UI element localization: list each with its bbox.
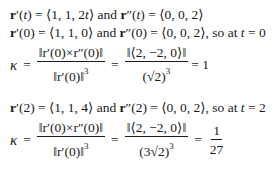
kappa-symbol: κ <box>10 57 17 74</box>
text: ) = ⟨1, 1, 2 <box>27 7 85 22</box>
text: ⟩ and <box>89 7 121 22</box>
exponent: 3 <box>169 141 174 151</box>
den-text: ‖r′(0)‖ <box>53 69 84 84</box>
equals: = <box>23 57 31 73</box>
numerator: ‖r′(0)×r″(0)‖ <box>37 119 105 137</box>
result: = 1 <box>191 57 209 73</box>
numerator: ‖⟨2, −2, 0⟩‖ <box>125 44 188 62</box>
denominator: (3√2)3 <box>137 137 175 161</box>
curvature-formula-t0: κ = ‖r′(0)×r″(0)‖ ‖r′(0)‖3 = ‖⟨2, −2, 0⟩… <box>10 44 209 86</box>
fraction: ‖⟨2, −2, 0⟩‖ (3√2)3 <box>125 119 188 161</box>
exponent: 3 <box>166 66 171 76</box>
den-text: ‖r′(0)‖ <box>53 144 84 159</box>
equals: = <box>23 132 31 148</box>
text: ) = ⟨0, 0, 2⟩ <box>140 7 203 22</box>
text: ″( <box>126 7 136 22</box>
den-text: (3√2) <box>139 144 169 159</box>
fraction: ‖r′(0)×r″(0)‖ ‖r′(0)‖3 <box>37 119 105 161</box>
equals: = <box>111 132 119 148</box>
at-t0-line: r′(0) = ⟨1, 1, 0⟩ and r″(0) = ⟨0, 0, 2⟩,… <box>10 25 266 41</box>
at-t2-line: r′(2) = ⟨1, 1, 4⟩ and r″(2) = ⟨0, 0, 2⟩,… <box>10 100 266 116</box>
fraction: ‖⟨2, −2, 0⟩‖ (√2)3 <box>125 44 188 86</box>
text: ″(2) = ⟨0, 0, 2⟩, so at <box>126 100 241 115</box>
exponent: 3 <box>84 141 89 151</box>
text: = 0 <box>245 25 266 40</box>
denominator: ‖r′(0)‖3 <box>51 62 90 86</box>
curvature-formula-t2: κ = ‖r′(0)×r″(0)‖ ‖r′(0)‖3 = ‖⟨2, −2, 0⟩… <box>10 119 228 161</box>
den-text: (√2) <box>143 69 166 84</box>
numerator: 1 <box>211 122 222 140</box>
numerator: ‖⟨2, −2, 0⟩‖ <box>125 119 188 137</box>
text: ″(0) = ⟨0, 0, 2⟩, so at <box>126 25 241 40</box>
exponent: 3 <box>84 66 89 76</box>
denominator: 27 <box>208 140 226 159</box>
equals: = <box>194 132 202 148</box>
numerator: ‖r′(0)×r″(0)‖ <box>37 44 105 62</box>
denominator: ‖r′(0)‖3 <box>51 137 90 161</box>
result-fraction: 1 27 <box>208 122 226 159</box>
text: ′(0) = ⟨1, 1, 0⟩ and <box>16 25 120 40</box>
text: = 2 <box>245 100 266 115</box>
denominator: (√2)3 <box>141 62 173 86</box>
text: ′(2) = ⟨1, 1, 4⟩ and <box>16 100 120 115</box>
equals: = <box>111 57 119 73</box>
fraction: ‖r′(0)×r″(0)‖ ‖r′(0)‖3 <box>37 44 105 86</box>
kappa-symbol: κ <box>10 132 17 149</box>
derivatives-line: r′(t) = ⟨1, 1, 2t⟩ and r″(t) = ⟨0, 0, 2⟩ <box>10 7 203 23</box>
